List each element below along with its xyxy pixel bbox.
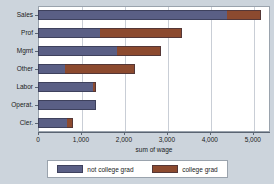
legend-swatch-not-college-grad <box>57 165 83 173</box>
bar-segment-not-college-grad[interactable] <box>38 118 67 128</box>
x-axis-tick <box>210 132 211 135</box>
legend-item-college-grad[interactable]: college grad <box>152 165 217 173</box>
bar-segment-not-college-grad[interactable] <box>38 10 227 20</box>
stacked-bar-chart: SalesProfMgmtOtherLaborOperat.Cler. 01,0… <box>0 0 274 184</box>
bar-row[interactable] <box>38 28 182 38</box>
bar-segment-college-grad[interactable] <box>93 82 97 92</box>
bar-segment-not-college-grad[interactable] <box>38 82 93 92</box>
bar-segment-college-grad[interactable] <box>227 10 261 20</box>
legend-label-not-college-grad: not college grad <box>87 166 133 173</box>
category-label-operat: Operat. <box>11 101 33 109</box>
x-axis-title: sum of wage <box>38 146 270 153</box>
bar-row[interactable] <box>38 46 161 56</box>
legend-swatch-college-grad <box>152 165 178 173</box>
bar-segment-college-grad[interactable] <box>67 118 73 128</box>
x-axis-tick-label: 1,000 <box>73 136 89 143</box>
x-axis-tick <box>124 132 125 135</box>
x-axis-tick-label: 0 <box>36 136 40 143</box>
bar-row[interactable] <box>38 64 135 74</box>
bar-row[interactable] <box>38 118 73 128</box>
bar-segment-college-grad[interactable] <box>117 46 161 56</box>
x-axis-tick-label: 2,000 <box>116 136 132 143</box>
x-axis-tick <box>253 132 254 135</box>
bar-row[interactable] <box>38 10 261 20</box>
x-axis-tick <box>167 132 168 135</box>
x-axis-tick-label: 4,000 <box>202 136 218 143</box>
category-label-labor: Labor <box>16 83 33 91</box>
category-label-cler: Cler. <box>20 119 33 127</box>
chart-legend: not college grad college grad <box>47 160 228 178</box>
bar-segment-not-college-grad[interactable] <box>38 28 100 38</box>
category-axis: SalesProfMgmtOtherLaborOperat.Cler. <box>0 6 36 132</box>
bar-segment-college-grad[interactable] <box>65 64 135 74</box>
bar-row[interactable] <box>38 82 96 92</box>
x-axis-line <box>38 132 270 133</box>
legend-label-college-grad: college grad <box>182 166 217 173</box>
legend-item-not-college-grad[interactable]: not college grad <box>57 165 133 173</box>
x-axis-tick-label: 3,000 <box>159 136 175 143</box>
bar-row[interactable] <box>38 100 96 110</box>
x-axis-tick <box>38 132 39 135</box>
bars-layer <box>38 6 270 132</box>
category-label-sales: Sales <box>17 11 33 19</box>
category-label-other: Other <box>17 65 33 73</box>
x-axis-tick <box>81 132 82 135</box>
category-label-mgmt: Mgmt <box>17 47 33 55</box>
x-axis-tick-label: 5,000 <box>245 136 261 143</box>
bar-segment-college-grad[interactable] <box>100 28 182 38</box>
bar-segment-not-college-grad[interactable] <box>38 64 65 74</box>
category-label-prof: Prof <box>21 29 33 37</box>
bar-segment-not-college-grad[interactable] <box>38 46 117 56</box>
bar-segment-not-college-grad[interactable] <box>38 100 96 110</box>
